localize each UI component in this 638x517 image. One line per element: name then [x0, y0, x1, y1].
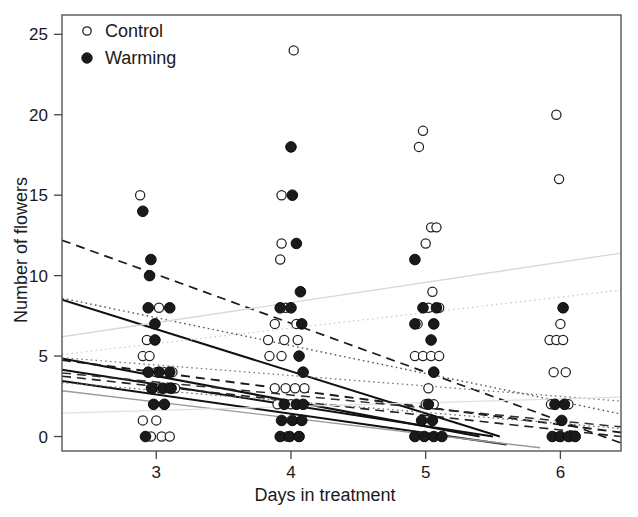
y-tick-label: 0: [39, 428, 48, 447]
data-point: [432, 223, 441, 232]
data-point: [293, 335, 302, 344]
data-point: [143, 367, 154, 378]
data-point: [147, 383, 158, 394]
data-point: [145, 351, 154, 360]
data-point: [166, 383, 177, 394]
data-point: [281, 384, 290, 393]
data-point: [140, 431, 151, 442]
data-point: [136, 191, 145, 200]
x-tick-label: 6: [556, 463, 565, 482]
data-point: [277, 239, 286, 248]
data-point: [552, 110, 561, 119]
data-point: [423, 399, 434, 410]
data-point: [154, 303, 163, 312]
figure-background: [0, 0, 638, 517]
y-tick-label: 20: [29, 106, 48, 125]
data-point: [150, 335, 161, 346]
data-point: [263, 335, 272, 344]
data-point: [421, 239, 430, 248]
data-point: [428, 319, 439, 330]
data-point: [294, 351, 305, 362]
data-point: [296, 415, 307, 426]
data-point: [275, 303, 286, 314]
data-point: [138, 416, 147, 425]
data-point: [276, 415, 287, 426]
data-point: [294, 431, 305, 442]
data-point: [561, 368, 570, 377]
data-point: [280, 335, 289, 344]
y-axis-title: Number of flowers: [11, 177, 31, 323]
data-point: [287, 190, 298, 201]
data-point: [144, 270, 155, 281]
x-tick-label: 3: [152, 463, 161, 482]
data-point: [276, 255, 285, 264]
x-axis-title: Days in treatment: [254, 485, 395, 505]
legend-warming-label: Warming: [105, 48, 176, 68]
data-point: [146, 254, 157, 265]
data-point: [416, 415, 427, 426]
y-tick-label: 10: [29, 267, 48, 286]
data-point: [556, 319, 565, 328]
x-tick-label: 5: [421, 463, 430, 482]
data-point: [298, 399, 309, 410]
data-point: [164, 367, 175, 378]
data-point: [549, 368, 558, 377]
data-point: [270, 319, 279, 328]
data-point: [414, 142, 423, 151]
data-point: [150, 319, 161, 330]
data-point: [410, 254, 421, 265]
data-point: [154, 367, 165, 378]
legend-control-marker-icon: [83, 27, 91, 35]
data-point: [558, 303, 569, 314]
data-point: [558, 335, 567, 344]
data-point: [295, 286, 306, 297]
data-point: [291, 238, 302, 249]
data-point: [410, 319, 421, 330]
data-point: [418, 126, 427, 135]
data-point: [265, 351, 274, 360]
data-point: [279, 399, 290, 410]
data-point: [277, 351, 286, 360]
data-point: [570, 431, 581, 442]
data-point: [286, 303, 297, 314]
data-point: [289, 46, 298, 55]
data-point: [164, 303, 175, 314]
data-point: [428, 287, 437, 296]
data-point: [424, 384, 433, 393]
data-point: [286, 142, 297, 153]
data-point: [152, 416, 161, 425]
legend-control-label: Control: [105, 21, 163, 41]
y-tick-label: 15: [29, 186, 48, 205]
data-point: [143, 303, 154, 314]
data-point: [431, 303, 442, 314]
flower-count-scatter-figure: 0510152025 3456 Number of flowers Days i…: [0, 0, 638, 517]
data-point: [426, 335, 437, 346]
data-point: [290, 384, 299, 393]
scatter-plot-canvas: 0510152025 3456 Number of flowers Days i…: [0, 0, 638, 517]
data-point: [428, 367, 439, 378]
data-point: [559, 399, 570, 410]
data-point: [554, 175, 563, 184]
data-point: [270, 384, 279, 393]
legend-warming-marker-icon: [82, 53, 92, 63]
data-point: [277, 191, 286, 200]
data-point: [296, 319, 307, 330]
data-point: [435, 351, 444, 360]
data-point: [298, 367, 309, 378]
data-point: [159, 399, 170, 410]
data-point: [165, 432, 174, 441]
data-point: [300, 384, 309, 393]
data-point: [427, 415, 438, 426]
data-point: [148, 399, 159, 410]
data-point: [437, 431, 448, 442]
data-point: [418, 303, 429, 314]
y-tick-label: 25: [29, 25, 48, 44]
data-point: [556, 415, 567, 426]
data-point: [138, 206, 149, 217]
x-tick-label: 4: [286, 463, 295, 482]
y-tick-label: 5: [39, 347, 48, 366]
